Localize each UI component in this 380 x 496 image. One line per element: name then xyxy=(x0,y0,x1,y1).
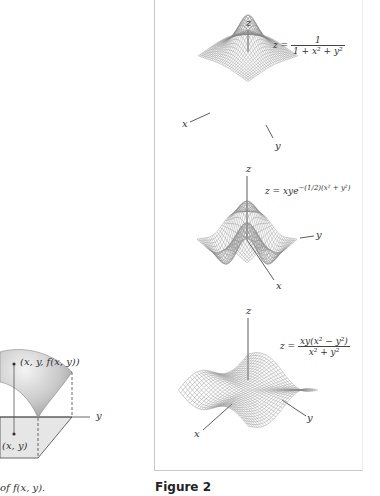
plot3-y-label: y xyxy=(307,412,313,423)
plot3-y-axis xyxy=(282,400,306,416)
mesh-line xyxy=(195,354,265,407)
mesh-line xyxy=(202,359,272,410)
plot3-z-label: z xyxy=(246,305,251,316)
plot3-mesh xyxy=(178,353,317,428)
plot3-equation: z = xy(x² − y²)x² + y² xyxy=(280,336,350,357)
figure-caption: Figure 2 xyxy=(155,480,211,494)
plot3-x-label: x xyxy=(194,428,200,439)
mesh-line xyxy=(241,390,311,419)
plot3-surface xyxy=(0,0,380,496)
